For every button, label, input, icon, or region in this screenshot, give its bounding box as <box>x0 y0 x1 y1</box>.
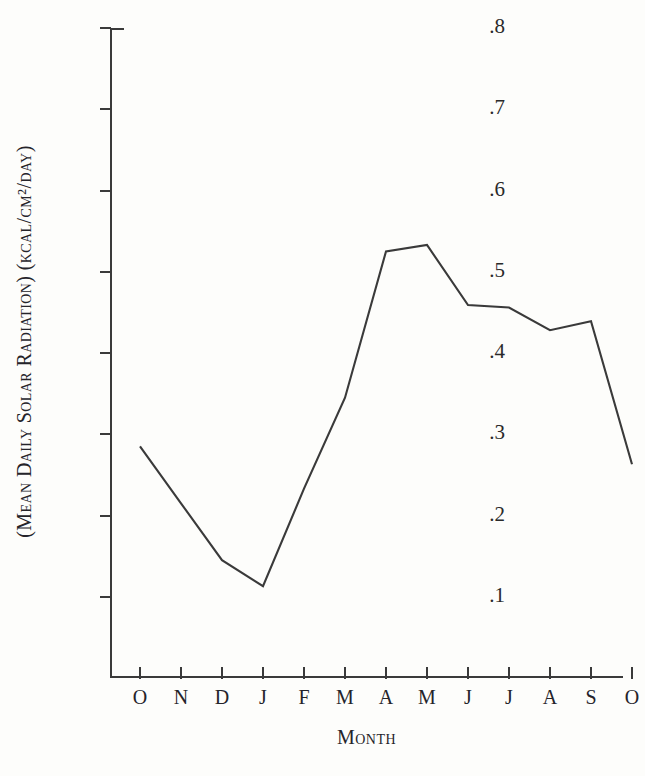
x-tick-label-12: O <box>617 686 645 709</box>
x-tick-label-10: A <box>535 686 565 709</box>
x-tick-label-8: J <box>453 686 483 709</box>
x-tick-label-2: D <box>207 686 237 709</box>
data-series-line <box>110 28 623 678</box>
x-tick-12 <box>631 667 633 679</box>
x-tick-label-9: J <box>494 686 524 709</box>
x-tick-label-5: M <box>330 686 360 709</box>
x-axis-title: Month <box>110 726 623 749</box>
x-tick-label-7: M <box>412 686 442 709</box>
x-tick-label-0: O <box>125 686 155 709</box>
x-tick-label-1: N <box>166 686 196 709</box>
x-tick-label-3: J <box>248 686 278 709</box>
solar-radiation-line-chart: (Mean Daily Solar Radiation) (kcal/cm²/d… <box>0 0 645 776</box>
y-axis-title-container: (Mean Daily Solar Radiation) (kcal/cm²/d… <box>0 0 48 700</box>
x-tick-label-6: A <box>371 686 401 709</box>
plot-area: .1.2.3.4.5.6.7.8 ONDJFMAMJJASO <box>110 28 623 678</box>
y-axis-title: (Mean Daily Solar Radiation) (kcal/cm²/d… <box>13 2 36 682</box>
x-tick-label-11: S <box>576 686 606 709</box>
x-tick-label-4: F <box>289 686 319 709</box>
